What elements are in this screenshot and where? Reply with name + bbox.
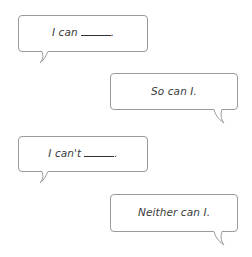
bubble-text: I can't. <box>18 147 148 159</box>
bubble-period: . <box>114 147 117 159</box>
fill-in-blank <box>84 148 114 157</box>
speech-bubble-shape <box>110 194 238 248</box>
bubble-phrase: I can <box>52 26 78 38</box>
speech-bubble-shape <box>18 136 148 186</box>
bubble-text: Neither can I. <box>110 206 238 218</box>
bubble-period: . <box>111 26 114 38</box>
speech-bubble-shape <box>110 73 238 125</box>
fill-in-blank <box>81 27 111 36</box>
speech-bubble-shape <box>18 15 148 65</box>
speech-bubble-so-can-i: So can I. <box>110 73 238 110</box>
bubble-text: So can I. <box>110 85 238 97</box>
bubble-text: I can. <box>18 26 148 38</box>
speech-bubble-i-can: I can. <box>18 15 148 52</box>
bubble-phrase: I can't <box>48 147 81 159</box>
speech-bubble-neither-can-i: Neither can I. <box>110 194 238 232</box>
speech-bubble-i-cant: I can't. <box>18 136 148 172</box>
